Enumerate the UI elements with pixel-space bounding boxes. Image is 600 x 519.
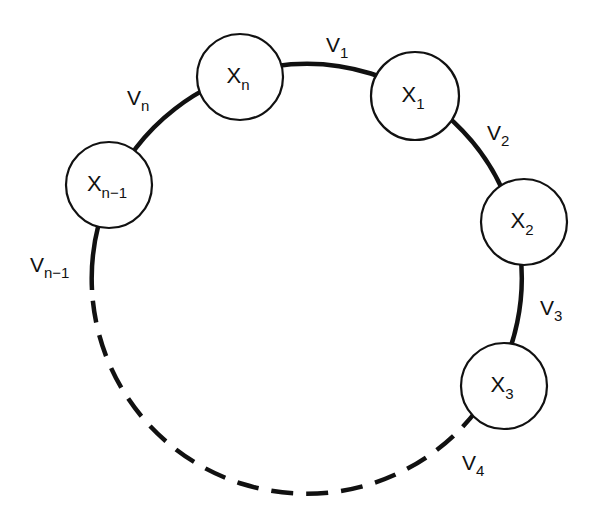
node-x2: X2 bbox=[481, 179, 567, 265]
nodes-group: XnX1X2X3Xn−1 bbox=[66, 34, 567, 429]
node-xn: Xn bbox=[197, 34, 283, 120]
node-xn-1: Xn−1 bbox=[66, 142, 152, 228]
edge-label-v2: V2 bbox=[487, 121, 509, 149]
ring-solid-arc bbox=[92, 64, 522, 410]
ring-diagram: XnX1X2X3Xn−1 V1V2V3V4Vn−1Vn bbox=[0, 0, 600, 519]
ring-dashed-arc bbox=[92, 290, 477, 494]
edge-label-v1: V1 bbox=[326, 33, 348, 61]
edge-label-vn: Vn bbox=[127, 86, 149, 114]
edge-label-v4: V4 bbox=[462, 451, 484, 479]
node-x1: X1 bbox=[371, 52, 459, 140]
edge-label-vn-1: Vn−1 bbox=[30, 253, 69, 281]
node-x3: X3 bbox=[461, 343, 547, 429]
edge-label-v3: V3 bbox=[540, 296, 562, 324]
